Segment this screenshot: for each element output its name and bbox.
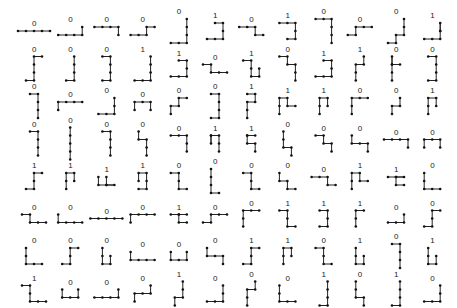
cell-label: 0 <box>249 200 253 208</box>
cell-label: 0 <box>430 46 434 54</box>
cell-label: 0 <box>104 279 108 287</box>
cell-label: 1 <box>177 50 181 58</box>
cell-label: 0 <box>394 129 398 137</box>
cell-label: 1 <box>177 271 181 279</box>
cell-label: 0 <box>141 91 145 99</box>
cell-label: 0 <box>68 204 72 212</box>
cell-label: 1 <box>394 271 398 279</box>
cell-label: 0 <box>104 121 108 129</box>
cell-label: 1 <box>358 237 362 245</box>
cell-label: 0 <box>394 8 398 16</box>
cell-label: 0 <box>68 117 72 125</box>
cell-label: 1 <box>322 50 326 58</box>
cell-label: 1 <box>141 46 145 54</box>
cell-label: 0 <box>141 16 145 24</box>
cell-label: 1 <box>285 200 289 208</box>
cell-label: 0 <box>104 87 108 95</box>
cell-label: 1 <box>213 125 217 133</box>
cell-label: 0 <box>394 87 398 95</box>
cell-label: 1 <box>104 166 108 174</box>
cell-label: 0 <box>285 46 289 54</box>
cell-label: 0 <box>322 237 326 245</box>
cell-label: 0 <box>285 275 289 283</box>
cell-label: 1 <box>322 200 326 208</box>
cell-label: 0 <box>394 204 398 212</box>
cell-label: 0 <box>213 237 217 245</box>
cell-label: 0 <box>285 162 289 170</box>
cell-label: 0 <box>430 200 434 208</box>
cell-label: 0 <box>430 129 434 137</box>
cell-label: 0 <box>68 16 72 24</box>
diagram-grid: 0000010100010001101011000000001110010000… <box>0 0 457 308</box>
cell-label: 0 <box>104 16 108 24</box>
cell-label: 0 <box>141 275 145 283</box>
cell-label: 0 <box>104 208 108 216</box>
cell-label: 1 <box>358 200 362 208</box>
cell-label: 0 <box>249 271 253 279</box>
cell-label: 0 <box>32 46 36 54</box>
cell-label: 0 <box>32 121 36 129</box>
cell-label: 0 <box>32 204 36 212</box>
cell-label: 1 <box>430 12 434 20</box>
cell-label: 1 <box>430 237 434 245</box>
cell-label: 0 <box>285 121 289 129</box>
cell-label: 0 <box>213 83 217 91</box>
cell-label: 0 <box>68 237 72 245</box>
cell-label: 0 <box>104 46 108 54</box>
cell-label: 0 <box>249 16 253 24</box>
cell-label: 1 <box>177 204 181 212</box>
cell-label: 0 <box>177 87 181 95</box>
cell-label: 0 <box>141 204 145 212</box>
cell-label: 0 <box>430 275 434 283</box>
cell-label: 0 <box>104 237 108 245</box>
cell-label: 0 <box>68 46 72 54</box>
cell-label: 0 <box>213 204 217 212</box>
cell-label: 1 <box>249 237 253 245</box>
cell-label: 1 <box>322 271 326 279</box>
cell-label: 0 <box>68 91 72 99</box>
cell-label: 0 <box>32 237 36 245</box>
cell-label: 0 <box>358 271 362 279</box>
cell-label: 1 <box>285 12 289 20</box>
cell-label: 1 <box>394 166 398 174</box>
cell-label: 0 <box>322 125 326 133</box>
cell-label: 1 <box>249 125 253 133</box>
cell-label: 1 <box>322 87 326 95</box>
cell-label: 0 <box>394 46 398 54</box>
cell-label: 1 <box>358 162 362 170</box>
cell-label: 1 <box>285 237 289 245</box>
cell-label: 0 <box>141 241 145 249</box>
lattice-path-icon <box>0 0 1 1</box>
cell-label: 0 <box>322 166 326 174</box>
cell-label: 0 <box>358 16 362 24</box>
cell-label: 0 <box>394 233 398 241</box>
cell-label: 1 <box>32 162 36 170</box>
cell-label: 0 <box>177 8 181 16</box>
cell-label: 0 <box>322 8 326 16</box>
cell-label: 0 <box>177 162 181 170</box>
cell-label: 0 <box>32 83 36 91</box>
cell-label: 1 <box>358 46 362 54</box>
cell-label: 0 <box>141 121 145 129</box>
cell-label: 0 <box>213 275 217 283</box>
cell-label: 0 <box>358 87 362 95</box>
cell-label: 0 <box>213 54 217 62</box>
cell-label: 1 <box>285 87 289 95</box>
cell-label: 1 <box>213 12 217 20</box>
cell-label: 1 <box>141 162 145 170</box>
cell-label: 0 <box>177 241 181 249</box>
cell-label: 1 <box>430 87 434 95</box>
cell-label: 0 <box>213 158 217 166</box>
diagram-cell: 0 <box>0 0 36 36</box>
cell-label: 0 <box>430 162 434 170</box>
cell-label: 0 <box>358 125 362 133</box>
cell-label: 1 <box>32 275 36 283</box>
cell-label: 1 <box>249 50 253 58</box>
cell-label: 0 <box>177 125 181 133</box>
cell-label: 0 <box>249 162 253 170</box>
cell-label: 0 <box>68 279 72 287</box>
cell-label: 1 <box>68 162 72 170</box>
cell-label: 1 <box>249 83 253 91</box>
